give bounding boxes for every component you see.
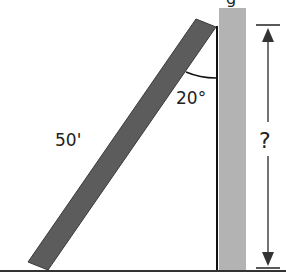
angle-label: 20° bbox=[176, 88, 206, 108]
wall bbox=[219, 8, 246, 270]
arrow-up-icon bbox=[262, 28, 274, 42]
ladder-wall-diagram: g 20° 50' ? bbox=[0, 0, 286, 276]
ladder-length-label: 50' bbox=[55, 130, 81, 150]
height-unknown-label: ? bbox=[259, 128, 271, 153]
title-fragment: g bbox=[226, 0, 236, 8]
angle-arc bbox=[186, 72, 216, 78]
arrow-down-icon bbox=[262, 252, 274, 266]
